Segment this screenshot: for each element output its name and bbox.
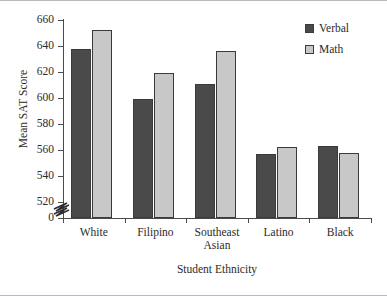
y-tick-label-660: 660 (14, 14, 54, 26)
bar-filipino-math (154, 73, 174, 218)
x-tick-5 (371, 218, 372, 223)
x-category-label-line: Filipino (125, 226, 187, 239)
legend-label-math: Math (319, 44, 343, 56)
y-tick-label-0: 0 (14, 212, 54, 224)
x-category-label-line: Latino (248, 226, 310, 239)
bar-latino-math (277, 147, 297, 218)
x-category-label-line: Asian (186, 239, 248, 252)
x-category-label-southeast-asian: SoutheastAsian (186, 226, 248, 251)
bar-white-verbal (71, 49, 91, 218)
bar-latino-verbal (256, 154, 276, 218)
bar-black-verbal (318, 146, 338, 218)
x-category-label-black: Black (309, 226, 371, 239)
bar-filipino-verbal (133, 99, 153, 218)
y-tick-label-520: 520 (14, 196, 54, 208)
x-category-label-white: White (63, 226, 125, 239)
y-axis-title: Mean SAT Score (17, 39, 29, 179)
x-category-label-latino: Latino (248, 226, 310, 239)
x-category-label-filipino: Filipino (125, 226, 187, 239)
legend-item-math: Math (305, 44, 349, 56)
x-category-label-line: Southeast (186, 226, 248, 239)
legend-swatch-icon-verbal (305, 24, 314, 33)
x-axis-title: Student Ethnicity (63, 263, 371, 275)
legend-item-verbal: Verbal (305, 23, 349, 35)
bar-white-math (92, 30, 112, 218)
chart-legend: VerbalMath (305, 23, 349, 64)
legend-swatch-icon-math (305, 45, 314, 54)
legend-label-verbal: Verbal (319, 23, 349, 35)
bar-chart: 5205405605806006206406600 WhiteFilipinoS… (0, 0, 387, 296)
bar-southeast-asian-verbal (195, 84, 215, 218)
x-category-label-line: Black (309, 226, 371, 239)
bar-black-math (339, 153, 359, 218)
x-category-label-line: White (63, 226, 125, 239)
bar-southeast-asian-math (216, 51, 236, 218)
